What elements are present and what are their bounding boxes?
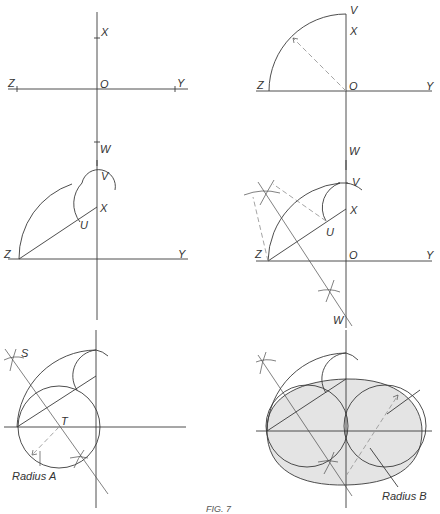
radius-a-dashed [33, 427, 59, 454]
arc-u [74, 183, 82, 222]
top-arc-v [82, 170, 115, 190]
diagonal-line [17, 376, 96, 427]
label-y: Y [426, 80, 434, 92]
label-x: X [349, 204, 358, 216]
panel-5: S T Radius A [4, 330, 186, 508]
label-v: V [352, 176, 361, 188]
label-w: W [100, 143, 112, 155]
diagonal-zx [19, 207, 97, 259]
panel-4: V X U Z O Y W [244, 160, 434, 328]
label-z: Z [3, 248, 12, 260]
cross-arc-1 [256, 360, 276, 362]
label-o: O [349, 80, 358, 92]
panel-3: V X U Z Y [3, 160, 188, 320]
panel-2: V X Z O Y W [256, 4, 434, 170]
cross-arc-1 [244, 191, 280, 195]
label-w: W [333, 314, 345, 326]
label-y: Y [177, 77, 185, 89]
label-w: W [349, 145, 361, 157]
cross-arc-4 [326, 280, 334, 302]
figure-caption: FIG. 7 [206, 504, 232, 514]
label-t: T [61, 415, 69, 427]
label-v: V [101, 170, 110, 182]
label-o: O [349, 249, 358, 261]
large-arc [268, 183, 340, 261]
label-z: Z [254, 248, 263, 260]
top-arc [96, 350, 108, 356]
label-radius-b: Radius B [382, 490, 427, 502]
label-x: X [349, 25, 358, 37]
label-radius-a: Radius A [12, 470, 56, 482]
top-arc [346, 353, 358, 360]
panel-6: Radius B [256, 330, 432, 508]
label-y: Y [426, 249, 434, 261]
diagonal-zx [268, 209, 346, 261]
label-z: Z [256, 79, 265, 91]
bisector-line [258, 182, 352, 326]
label-u: U [80, 219, 88, 231]
panel-1: X O Z Y W [7, 12, 188, 166]
dashed-line-2 [273, 184, 326, 221]
large-arc [19, 184, 72, 259]
label-u: U [326, 226, 334, 238]
radius-dashed-line [293, 38, 346, 91]
label-v: V [350, 4, 359, 16]
label-x: X [100, 26, 109, 38]
label-z: Z [7, 77, 16, 89]
label-o: O [100, 78, 109, 90]
large-arc [17, 350, 96, 427]
figure-canvas: X O Z Y W V X Z O Y W V X U Z Y [0, 0, 440, 514]
cross-arc-2 [260, 180, 274, 205]
label-s: S [21, 347, 29, 359]
label-x: X [99, 202, 108, 214]
label-y: Y [178, 248, 186, 260]
